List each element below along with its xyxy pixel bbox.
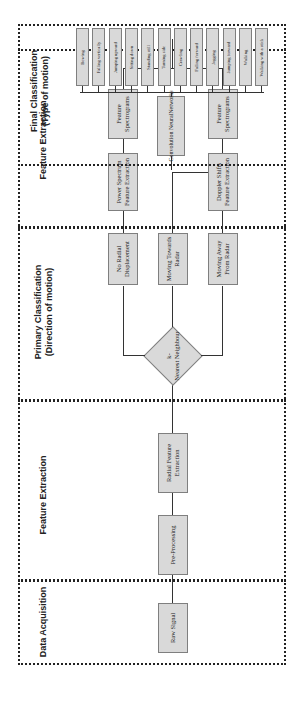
class-node: Crawling [174, 28, 187, 86]
node-cnn: Convolution NeuralNetworks [157, 96, 185, 156]
connector-knn-up [123, 355, 145, 356]
class-node: Turning side [158, 28, 171, 86]
connector-towards-vertical [172, 172, 208, 173]
class-node: Bowing [76, 28, 89, 86]
class-node: Walking with a stick [255, 28, 268, 86]
class-label: Turning side [162, 45, 167, 68]
class-label: Walking with a stick [259, 38, 264, 76]
connector-away-to-doppler [222, 211, 223, 233]
class-label: Crawling [178, 48, 183, 65]
class-node: Walking [239, 28, 252, 86]
node-knn-decision: k- Nearest Neighbour [144, 327, 202, 385]
connector-knn-bottom-branch [222, 286, 223, 356]
connector-cnn-in [171, 156, 172, 170]
class-node: Jumping upward [109, 28, 122, 86]
class-node: Jogging [206, 28, 219, 86]
class-label: Jumping forward [227, 41, 232, 73]
cnn-label: Convolution NeuralNetworks [167, 90, 175, 161]
node-raw-signal: Raw Signal [158, 603, 188, 653]
connector-class-bus [80, 92, 264, 93]
class-label: Jumping upward [113, 42, 118, 73]
stage-title-feature-extraction-1: Feature Extraction [38, 435, 49, 555]
node-moving-away-from-radar: Moving Away From Radar [208, 233, 238, 285]
connector-noradial-to-power [123, 211, 124, 233]
connector-knn-mid-branch [172, 286, 173, 327]
node-no-radial-displacement: No Radial Displacement [108, 233, 138, 285]
connector-towards-up [172, 173, 173, 233]
class-node: Jumping forward [223, 28, 236, 86]
class-label: Falling forward [194, 43, 199, 72]
connector-knn-top-branch [123, 286, 124, 356]
class-label: Sitting down [129, 45, 134, 69]
stage-title-primary-classification: Primary Classification (Direction of mot… [33, 237, 55, 387]
stage-title-final-classification: Final Classification (Type of motion) [29, 21, 51, 161]
class-label: Bowing [80, 50, 85, 65]
class-node: Standing still [141, 28, 154, 86]
class-node: Falling vertically [92, 28, 105, 86]
stage-data-acquisition [18, 579, 286, 665]
node-pre-processing: Pre-Processing [158, 515, 188, 575]
connector-raw-to-pre [172, 575, 173, 605]
connector-knn-down [201, 355, 222, 356]
connector-pre-to-radial [172, 493, 173, 517]
class-label: Falling vertically [96, 41, 101, 73]
node-moving-towards-radar: Moving Towards Radar [158, 233, 188, 285]
class-node: Sitting down [125, 28, 138, 86]
node-radial-feature-extraction: Radial Feature Extraction [158, 433, 188, 493]
connector-radial-to-knn [172, 383, 173, 433]
stage-feature-extraction-1 [18, 399, 286, 582]
class-label: Standing still [145, 45, 150, 69]
class-label: Jogging [210, 50, 215, 65]
class-label: Walking [243, 49, 248, 64]
knn-label: k- Nearest Neighbour [144, 327, 202, 385]
class-node: Falling forward [190, 28, 203, 86]
stage-title-data-acquisition: Data Acquisition [38, 584, 49, 660]
